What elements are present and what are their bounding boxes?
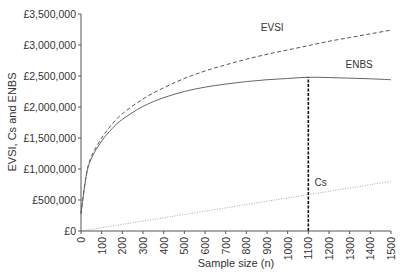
series-cs-line bbox=[81, 181, 391, 231]
axes bbox=[81, 14, 391, 231]
y-tick-label: £3,000,000 bbox=[23, 39, 76, 51]
y-tick-label: £2,000,000 bbox=[23, 101, 76, 113]
x-tick-label: 500 bbox=[178, 237, 190, 255]
x-tick-label: 1400 bbox=[364, 237, 376, 261]
y-tick-label: £1,500,000 bbox=[23, 132, 76, 144]
series-label-enbs: ENBS bbox=[346, 59, 374, 70]
x-tick-label: 400 bbox=[158, 237, 170, 255]
x-axis-title: Sample size (n) bbox=[198, 257, 274, 269]
y-tick-label: £500,000 bbox=[32, 194, 76, 206]
x-tick-label: 600 bbox=[199, 237, 211, 255]
x-tick-label: 1100 bbox=[302, 237, 314, 260]
x-tick-label: 1000 bbox=[282, 237, 294, 261]
series-label-evsi: EVSI bbox=[261, 22, 284, 33]
series-enbs-line bbox=[81, 77, 391, 213]
y-tick-label: £1,000,000 bbox=[23, 163, 76, 175]
plot-series bbox=[81, 30, 391, 231]
x-tick-label: 1200 bbox=[323, 237, 335, 261]
y-tick-label: £2,500,000 bbox=[23, 70, 76, 82]
evsi-enbs-chart: £0£500,000£1,000,000£1,500,000£2,000,000… bbox=[0, 0, 402, 275]
x-tick-label: 1300 bbox=[344, 237, 356, 261]
series-labels: EVSIENBSCs bbox=[261, 22, 373, 188]
x-tick-label: 300 bbox=[137, 237, 149, 255]
y-tick-label: £3,500,000 bbox=[23, 8, 76, 20]
x-tick-label: 900 bbox=[261, 237, 273, 255]
x-tick-label: 1500 bbox=[385, 237, 397, 261]
x-tick-label: 100 bbox=[96, 237, 108, 255]
y-tick-label: £0 bbox=[64, 225, 76, 237]
x-tick-label: 200 bbox=[116, 237, 128, 255]
x-tick-label: 800 bbox=[240, 237, 252, 255]
series-evsi-line bbox=[81, 30, 391, 214]
y-axis-title: EVSI, Cs and ENBS bbox=[6, 72, 18, 171]
x-ticks: 0100200300400500600700800900100011001200… bbox=[75, 231, 397, 260]
x-tick-label: 700 bbox=[220, 237, 232, 255]
series-label-cs: Cs bbox=[315, 177, 327, 188]
y-ticks: £0£500,000£1,000,000£1,500,000£2,000,000… bbox=[23, 8, 81, 237]
x-tick-label: 0 bbox=[75, 237, 87, 243]
